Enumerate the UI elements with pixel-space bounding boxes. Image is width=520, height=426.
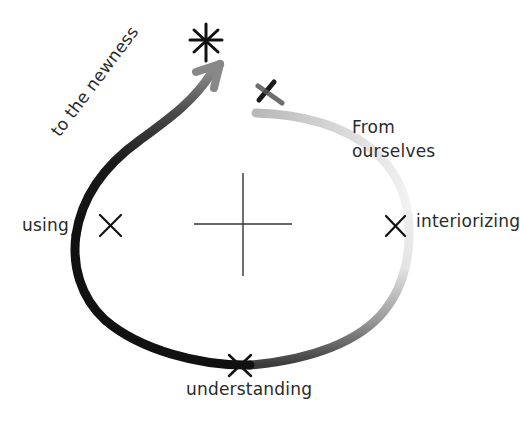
interiorizing-x-icon — [386, 216, 405, 236]
label-from-line1: From — [352, 115, 462, 139]
using-x-icon — [100, 215, 121, 236]
path-segment-understanding — [75, 235, 250, 365]
label-using: using — [22, 217, 69, 234]
label-from-line2: ourselves — [352, 139, 462, 163]
center-cross-icon — [194, 173, 292, 276]
asterisk-icon — [190, 24, 222, 61]
path-segment-interiorizing — [250, 215, 409, 365]
path-segment-to-newness — [76, 72, 212, 235]
label-understanding: understanding — [186, 381, 312, 398]
start-x-icon — [258, 82, 282, 103]
label-from-ourselves: From ourselves — [352, 115, 462, 163]
label-interiorizing: interiorizing — [416, 213, 520, 230]
